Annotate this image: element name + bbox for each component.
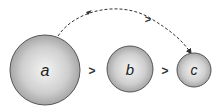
circle-a-label: a: [41, 62, 50, 79]
arc-greater-than-symbol: >: [145, 13, 151, 25]
circle-b-label: b: [126, 61, 134, 78]
circle-a: a: [10, 35, 80, 105]
greater-than-b-c: >: [161, 64, 168, 78]
dashed-arc-arrow: [58, 9, 190, 52]
size-comparison-diagram: > a > b > c: [0, 0, 220, 107]
greater-than-a-b: >: [88, 64, 95, 78]
circle-b: b: [107, 46, 153, 92]
circle-c-label: c: [191, 62, 198, 78]
circle-c: c: [177, 53, 211, 87]
